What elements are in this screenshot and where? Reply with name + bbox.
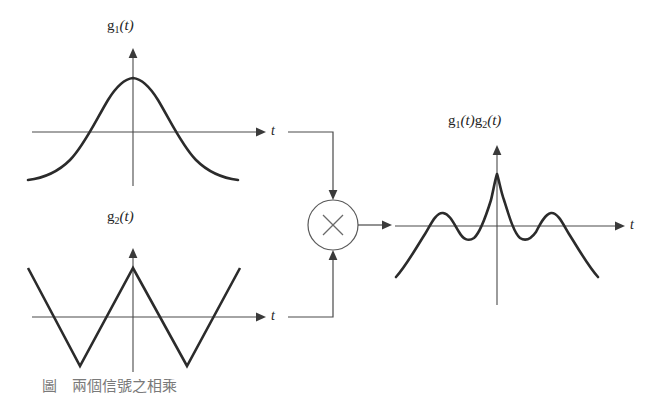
g2-label-main: g <box>107 208 115 224</box>
g2-horizontal-axis-arrow <box>256 313 266 322</box>
multiplier-block <box>288 132 392 317</box>
multiplier-output-arrow <box>382 221 392 230</box>
g1-vertical-axis-arrow <box>129 48 138 58</box>
g1-label-arg: (t) <box>120 17 134 33</box>
multiplier-input-bottom-wire <box>288 260 333 317</box>
g1g2-horizontal-axis-arrow <box>615 222 625 231</box>
g1-axis-label-t: t <box>271 124 275 138</box>
g1-label-main: g <box>107 17 115 33</box>
multiplier-input-top-wire <box>288 132 333 190</box>
g1g2-plot-label: g1(t)g2(t) <box>448 113 501 130</box>
g1-plot-label: g1(t) <box>107 18 134 35</box>
g1-horizontal-axis-arrow <box>256 128 266 137</box>
panel-g1 <box>28 48 266 186</box>
g2-vertical-axis-arrow <box>129 248 138 258</box>
g2-plot-label: g2(t) <box>107 209 134 226</box>
figure-caption: 圖 兩個信號之相乘 <box>42 379 310 393</box>
g2-label-arg: (t) <box>120 208 134 224</box>
g1g2-vertical-axis-arrow <box>493 145 502 155</box>
multiplier-input-bottom-arrow <box>329 250 338 260</box>
g1g2-label-main-a: g <box>448 112 456 128</box>
panel-g1g2 <box>395 145 625 305</box>
figure-svg <box>0 0 653 393</box>
g2-axis-label-t: t <box>271 309 275 323</box>
g1g2-label-arg-a: (t) <box>461 112 475 128</box>
multiplier-input-top-arrow <box>329 190 338 200</box>
g1g2-axis-label-t: t <box>630 218 634 232</box>
panel-g2 <box>28 248 266 372</box>
g1g2-label-arg-b: (t) <box>487 112 501 128</box>
figure-container: g1(t) t g2(t) t g1(t)g2(t) t 圖 兩個信號之相乘 <box>0 0 653 393</box>
